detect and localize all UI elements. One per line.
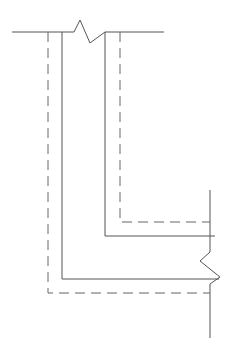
outer-hidden-line	[48, 32, 210, 293]
top-break-line	[12, 20, 164, 43]
right-break-line	[200, 190, 220, 338]
diagram-canvas	[0, 0, 232, 353]
inner-solid-edge	[105, 32, 215, 236]
outer-solid-edge	[62, 32, 219, 279]
inner-hidden-line	[120, 32, 210, 222]
